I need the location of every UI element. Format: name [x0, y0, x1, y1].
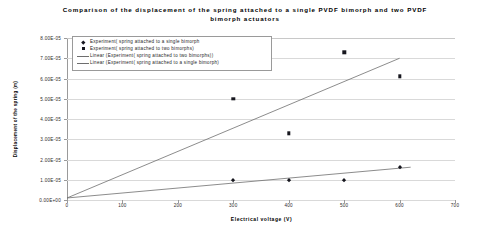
x-tick-label: 100	[105, 203, 139, 208]
legend-diamond-marker-icon	[76, 39, 90, 43]
trendline	[67, 58, 400, 198]
x-tick-label: 600	[383, 203, 417, 208]
y-tick-label: 2.00E-05	[15, 157, 61, 162]
legend-item: Linear (Experiment( spring attached to a…	[76, 60, 268, 65]
data-point	[398, 165, 402, 169]
y-gridline	[67, 200, 455, 201]
x-tick-label: 300	[216, 203, 250, 208]
legend-item-label: Linear (Experiment( spring attached to t…	[90, 53, 268, 58]
chart-title: Comparison of the displacement of the sp…	[55, 5, 435, 23]
legend-line-marker-icon	[76, 60, 90, 65]
x-tick-label: 200	[161, 203, 195, 208]
y-tick-label: 3.00E-05	[15, 137, 61, 142]
chart-container: Comparison of the displacement of the sp…	[0, 0, 483, 237]
y-tick-label: 6.00E-05	[15, 76, 61, 81]
legend-square-marker-icon	[76, 46, 90, 51]
x-tick-label: 700	[438, 203, 472, 208]
data-point	[342, 50, 345, 53]
legend-key-glyph	[81, 40, 85, 44]
legend-item-label: Linear (Experiment( spring attached to a…	[90, 60, 268, 65]
trendline	[67, 167, 411, 198]
x-tick-label: 500	[327, 203, 361, 208]
legend-item: Linear (Experiment( spring attached to t…	[76, 53, 268, 58]
x-axis-title: Electrical voltage (V)	[67, 216, 456, 222]
y-tick-label: 1.00E-05	[15, 177, 61, 182]
legend-item: Experiment( spring attached to two bimor…	[76, 46, 268, 51]
chart-legend: Experiment( spring attached to a single …	[72, 36, 272, 71]
data-point	[287, 131, 290, 134]
y-tick-label: 5.00E-05	[15, 96, 61, 101]
legend-item-label: Experiment( spring attached to a single …	[90, 39, 268, 44]
x-tick-label: 0	[50, 203, 84, 208]
y-tick-label: 4.00E-05	[15, 117, 61, 122]
legend-item-label: Experiment( spring attached to two bimor…	[90, 46, 268, 51]
legend-key-glyph	[77, 63, 89, 64]
y-tick-label: 8.00E-05	[15, 36, 61, 41]
data-point	[398, 75, 401, 78]
legend-key-glyph	[82, 47, 85, 50]
legend-item: Experiment( spring attached to a single …	[76, 39, 268, 44]
y-axis-title: Displacement of the spring (m)	[13, 59, 18, 179]
data-point	[232, 97, 235, 100]
legend-line-marker-icon	[76, 53, 90, 58]
y-tick-label: 0.00E+00	[15, 198, 61, 203]
x-tick-label: 400	[272, 203, 306, 208]
y-tick-label: 7.00E-05	[15, 56, 61, 61]
legend-key-glyph	[77, 56, 89, 57]
